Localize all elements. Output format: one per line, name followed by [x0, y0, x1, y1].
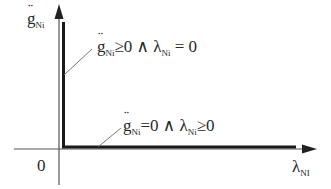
annotation-subscript: Ni: [106, 48, 115, 58]
annotation-subscript: Ni: [188, 127, 197, 137]
horizontal-branch-annotation: gNi=0 ∧ λNi≥0: [123, 117, 215, 134]
diagram-canvas: [0, 0, 331, 189]
annotation-text: ≥0: [197, 116, 215, 135]
x-axis-label: λNI: [292, 158, 310, 175]
annotation-subscript: Ni: [132, 127, 141, 137]
annotation-symbol: g: [97, 38, 106, 55]
annotation-symbol: g: [123, 117, 132, 134]
vertical-branch-leader: [64, 49, 92, 75]
y-axis-symbol: g: [27, 10, 36, 27]
annotation-text: ≥0 ∧ λ: [115, 37, 162, 56]
y-axis-arrowhead: [55, 4, 64, 19]
annotation-text: =0 ∧ λ: [141, 116, 188, 135]
horizontal-branch-leader: [98, 128, 121, 147]
origin-label: 0: [37, 157, 46, 174]
y-axis-subscript: Ni: [36, 20, 45, 30]
x-axis-subscript: NI: [300, 168, 310, 178]
annotation-subscript: Ni: [162, 48, 171, 58]
y-axis-label: gNi: [27, 10, 45, 27]
x-axis-symbol: λ: [292, 157, 300, 176]
annotation-text: = 0: [171, 37, 198, 56]
vertical-branch-annotation: gNi≥0 ∧ λNi = 0: [97, 38, 197, 55]
x-axis-arrowhead: [302, 145, 317, 154]
